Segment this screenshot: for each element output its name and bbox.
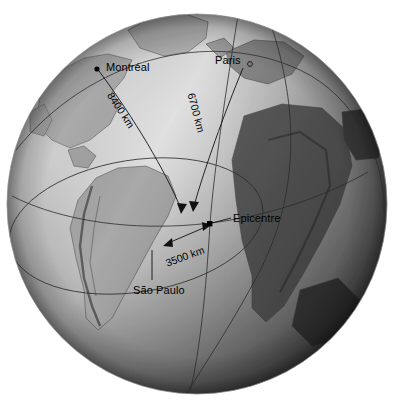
label-epicentre: Epicentre: [233, 213, 280, 224]
montreal-marker[interactable]: [94, 66, 99, 71]
epicentre-marker[interactable]: [207, 221, 212, 226]
label-paris: Paris: [215, 55, 241, 66]
label-sao-paulo: São Paulo: [133, 285, 185, 296]
label-montreal: Montréal: [106, 62, 150, 73]
globe-illustration: [0, 0, 398, 410]
figure-canvas: Montréal Paris Epicentre São Paulo 8400 …: [0, 0, 398, 410]
